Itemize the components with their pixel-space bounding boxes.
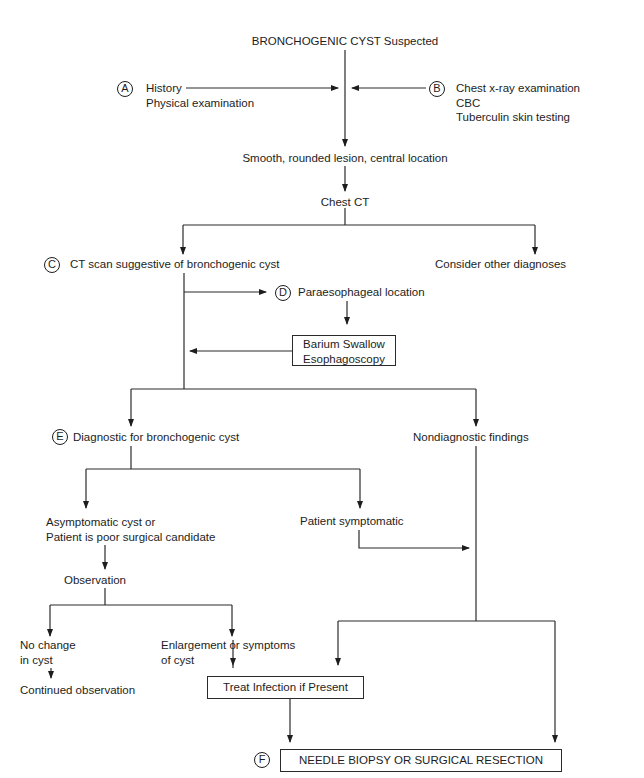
enlargement-line-2: of cyst (161, 653, 194, 668)
barium-box: Barium Swallow Esophagoscopy (292, 335, 396, 366)
step-d-text: Paraesophageal location (298, 285, 425, 300)
nondiagnostic-node: Nondiagnostic findings (413, 430, 529, 445)
needle-biopsy-box: NEEDLE BIOPSY OR SURGICAL RESECTION (280, 749, 562, 772)
marker-c-icon: C (44, 257, 60, 273)
asymptomatic-line-1: Asymptomatic cyst or (46, 515, 155, 530)
marker-d-icon: D (275, 285, 291, 301)
other-diagnoses-node: Consider other diagnoses (435, 257, 566, 272)
marker-e-icon: E (52, 429, 68, 445)
chest-ct-node: Chest CT (321, 195, 370, 210)
step-a-physical: Physical examination (146, 96, 254, 111)
continued-observation-node: Continued observation (20, 683, 135, 698)
step-c-text: CT scan suggestive of bronchogenic cyst (70, 257, 279, 272)
title-suspected: BRONCHOGENIC CYST Suspected (252, 34, 438, 49)
treat-infection-box: Treat Infection if Present (207, 676, 364, 699)
lesion-node: Smooth, rounded lesion, central location (242, 151, 447, 166)
marker-f-icon: F (254, 752, 270, 768)
no-change-line-2: in cyst (20, 653, 53, 668)
barium-line-1: Barium Swallow (293, 337, 395, 352)
marker-a-icon: A (117, 81, 133, 97)
connector-symptomatic-to-right (359, 530, 469, 548)
observation-node: Observation (64, 573, 126, 588)
step-a-history: History (146, 81, 182, 96)
asymptomatic-line-2: Patient is poor surgical candidate (46, 530, 215, 545)
step-b-tuberculin: Tuberculin skin testing (456, 110, 570, 125)
barium-line-2: Esophagoscopy (293, 352, 395, 367)
no-change-line-1: No change (20, 638, 76, 653)
step-b-xray: Chest x-ray examination (456, 81, 580, 96)
step-b-cbc: CBC (456, 96, 480, 111)
step-e-text: Diagnostic for bronchogenic cyst (73, 430, 239, 445)
enlargement-line-1: Enlargement or symptoms (161, 638, 295, 653)
marker-b-icon: B (429, 81, 445, 97)
symptomatic-node: Patient symptomatic (300, 514, 404, 529)
